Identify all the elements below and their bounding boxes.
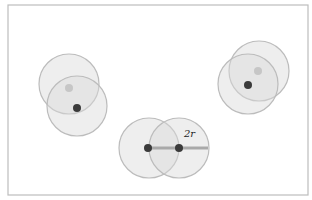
- diameter-label: 2r: [183, 128, 196, 139]
- dark-center-dot: [144, 144, 152, 152]
- light-center-dot: [65, 84, 73, 92]
- dark-center-dot: [73, 104, 81, 112]
- diagram-canvas: 2r: [0, 0, 312, 200]
- dark-center-dot: [175, 144, 183, 152]
- light-center-dot: [254, 67, 262, 75]
- dark-center-dot: [244, 81, 252, 89]
